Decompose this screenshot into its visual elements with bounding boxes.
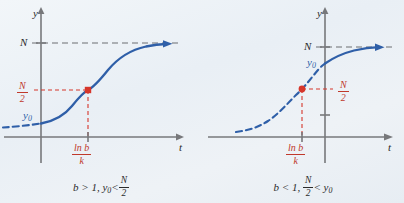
panel-left: y t N N 2 y0 ln b k b > 1, y0< N 2 (0, 0, 202, 203)
curve-arrowhead (163, 40, 173, 47)
x-axis-arrowhead (384, 133, 393, 140)
curve-dashed-extension (3, 124, 41, 128)
inflection-point-marker (85, 87, 91, 93)
label-y0-subscript: 0 (28, 114, 32, 123)
y-axis-label: y (33, 8, 38, 19)
ln-b-numerator: ln b (286, 143, 305, 154)
caption-right-fraction: N 2 (303, 176, 313, 198)
label-y0: y0 (23, 110, 32, 123)
tick-label-N: N (304, 41, 311, 52)
inflection-point-marker (299, 86, 306, 93)
caption-left-y0: y0 (102, 181, 111, 193)
ln-b-numerator: ln b (72, 143, 91, 154)
y-axis-arrowhead (38, 7, 45, 14)
half-N-numerator: N (17, 81, 28, 92)
tick-label-ln-b-over-k: ln b k (72, 143, 91, 166)
label-y0-subscript: 0 (312, 61, 316, 70)
x-axis-label: t (179, 142, 182, 153)
k-denominator: k (286, 154, 305, 166)
caption-right-y0: y0 (324, 181, 333, 193)
caption-right: b < 1, N 2 < y0 (202, 176, 404, 198)
panel-right-graphic (202, 0, 404, 203)
tick-label-half-N: N 2 (338, 80, 349, 103)
panel-right: y t N y0 N 2 ln b k b < 1, N 2 < y0 (202, 0, 404, 203)
caption-left: b > 1, y0< N 2 (0, 176, 202, 198)
logistic-curve (325, 47, 379, 63)
curve-arrowhead (375, 44, 385, 52)
caption-left-relation: < (111, 181, 118, 193)
tick-label-half-N: N 2 (17, 81, 28, 104)
caption-right-condition: b < 1, (274, 181, 301, 193)
curve-dashed-extension (236, 64, 325, 133)
panel-left-graphic (0, 0, 202, 203)
y-axis-label: y (317, 8, 322, 19)
caption-left-condition: b > 1, (73, 181, 100, 193)
x-axis-arrowhead (176, 133, 184, 140)
half-N-denominator: 2 (338, 91, 349, 103)
logistic-curves-figure: y t N N 2 y0 ln b k b > 1, y0< N 2 (0, 0, 404, 203)
tick-label-N: N (20, 37, 27, 48)
caption-left-fraction: N 2 (119, 176, 129, 198)
label-y0: y0 (307, 57, 316, 70)
logistic-curve (41, 44, 166, 124)
half-N-numerator: N (338, 80, 349, 91)
k-denominator: k (72, 154, 91, 166)
x-axis-label: t (388, 142, 391, 153)
caption-right-relation: < (313, 181, 320, 193)
y-axis-arrowhead (322, 7, 329, 14)
tick-label-ln-b-over-k: ln b k (286, 143, 305, 166)
half-N-denominator: 2 (17, 92, 28, 104)
